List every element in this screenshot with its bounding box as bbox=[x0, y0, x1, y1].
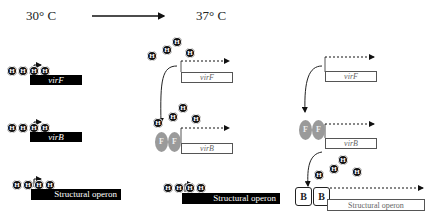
h-protein-icon: H bbox=[7, 66, 17, 76]
curved-arrow-icon bbox=[305, 66, 322, 112]
f-protein-icon: F bbox=[155, 132, 168, 152]
h-protein-icon: H bbox=[352, 167, 362, 177]
f-protein-icon: F bbox=[312, 120, 325, 140]
h-protein-icon: H bbox=[185, 48, 195, 58]
gene-virb-active: virB bbox=[325, 138, 377, 149]
h-protein-icon: H bbox=[147, 51, 157, 61]
gene-virf-active: virF bbox=[325, 71, 377, 82]
gene-structural-operon-repressed: Structural operon bbox=[182, 193, 280, 204]
h-protein-icon: H bbox=[7, 123, 17, 133]
h-protein-icon: H bbox=[153, 118, 163, 128]
h-protein-icon: H bbox=[18, 123, 28, 133]
f-protein-icon: F bbox=[299, 120, 312, 140]
gene-virb-active: virB bbox=[181, 143, 233, 154]
gene-structural-operon-repressed: Structural operon bbox=[31, 189, 121, 200]
h-protein-icon: H bbox=[163, 183, 173, 193]
gene-virf-repressed: virF bbox=[30, 75, 82, 85]
h-protein-icon: H bbox=[329, 164, 339, 174]
h-protein-icon: H bbox=[172, 37, 182, 47]
h-protein-icon: H bbox=[338, 155, 348, 165]
b-protein-icon: B bbox=[295, 187, 312, 206]
h-protein-icon: H bbox=[174, 183, 184, 193]
h-protein-icon: H bbox=[178, 103, 188, 113]
h-protein-icon: H bbox=[191, 114, 201, 124]
h-protein-icon: H bbox=[18, 66, 28, 76]
h-protein-icon: H bbox=[314, 170, 324, 180]
temperature-37c-label: 37° C bbox=[196, 8, 226, 24]
h-protein-icon: H bbox=[168, 112, 178, 122]
gene-virf-active: virF bbox=[181, 72, 233, 83]
temperature-30c-label: 30° C bbox=[26, 8, 56, 24]
gene-virb-repressed: virB bbox=[30, 132, 82, 142]
h-protein-icon: H bbox=[185, 183, 195, 193]
f-protein-icon: F bbox=[168, 132, 181, 152]
h-protein-icon: H bbox=[12, 180, 22, 190]
gene-structural-operon-active: Structural operon bbox=[327, 199, 425, 211]
h-protein-icon: H bbox=[196, 183, 206, 193]
curved-arrow-icon bbox=[308, 152, 322, 186]
h-protein-icon: H bbox=[162, 45, 172, 55]
